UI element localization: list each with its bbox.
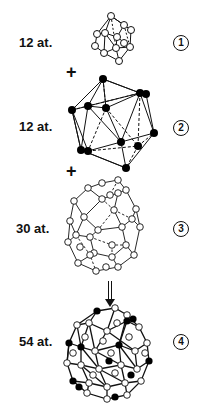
atom-count-label-4: 54 at. xyxy=(19,334,52,349)
icosahedron-white-cluster xyxy=(86,10,142,68)
step-number-3: 3 xyxy=(173,221,189,237)
step-number-2: 2 xyxy=(173,120,189,136)
atom-count-label-1: 12 at. xyxy=(19,35,52,50)
icosidodecahedron-white-cluster xyxy=(60,175,164,279)
atom-count-label-2: 12 at. xyxy=(19,119,52,134)
combined-54-atom-cluster xyxy=(59,303,161,403)
atom-count-label-3: 30 at. xyxy=(16,221,49,236)
step-number-4: 4 xyxy=(173,334,189,350)
icosahedron-black-cluster xyxy=(66,72,166,172)
step-number-1: 1 xyxy=(173,35,189,51)
